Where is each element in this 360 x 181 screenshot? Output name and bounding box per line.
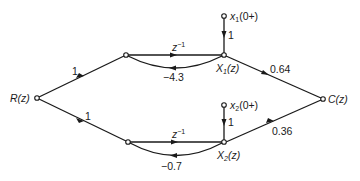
- label-r: R(z): [10, 92, 30, 104]
- gain-x1-c: 0.64: [270, 63, 291, 75]
- gain-feedback-upper: −4.3: [163, 71, 184, 83]
- gain-r-lower: 1: [85, 110, 91, 122]
- edge-r-to-lower-node: [39, 99, 126, 141]
- node-upper: [124, 53, 129, 58]
- gain-r-upper: 1: [72, 65, 78, 77]
- arrow-icon: [169, 66, 176, 71]
- node-c: [321, 97, 326, 102]
- arrow-icon: [171, 140, 178, 145]
- label-x1-initial: x1(0+): [229, 10, 258, 23]
- label-x1: X1(z): [215, 62, 239, 75]
- arrow-icon: [261, 70, 269, 75]
- gain-z-inv-lower: z−1: [171, 128, 185, 140]
- arrow-icon: [170, 53, 177, 58]
- arrow-icon: [222, 119, 227, 126]
- arrow-icon: [222, 31, 227, 38]
- label-x2: X2(z): [216, 149, 240, 162]
- gain-feedback-lower: −0.7: [161, 160, 182, 172]
- gain-x2-c: 0.36: [272, 125, 293, 137]
- node-x2-initial: [222, 103, 227, 108]
- gain-z-inv-upper: z−1: [171, 41, 185, 53]
- gain-x1-initial: 1: [228, 29, 234, 41]
- signal-flow-graph: R(z) C(z) X1(z) x1(0+) X2(z) x2(0+) 1 1 …: [0, 0, 360, 181]
- arrow-icon: [170, 153, 177, 158]
- node-r: [35, 96, 40, 101]
- gain-x2-initial: 1: [228, 116, 234, 128]
- label-x2-initial: x2(0+): [229, 99, 258, 112]
- node-x1: [222, 53, 227, 58]
- node-x1-initial: [222, 14, 227, 19]
- node-lower: [126, 140, 131, 145]
- node-x2: [222, 140, 227, 145]
- label-c: C(z): [328, 93, 348, 105]
